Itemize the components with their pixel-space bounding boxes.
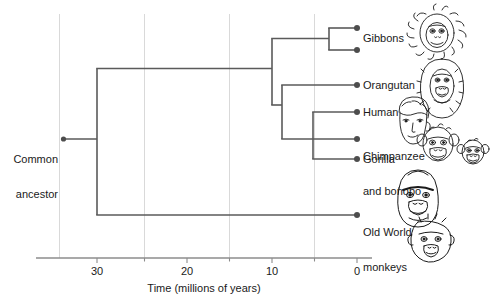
- axis-ticks: [97, 258, 357, 263]
- illustration-gibbon-face: [407, 4, 466, 59]
- tip-label-gorilla: Gorilla: [363, 154, 395, 166]
- tip-dot-chimpanzee: [354, 136, 360, 142]
- tip-dots: [61, 25, 360, 218]
- axis-tick-label-0: 0: [342, 265, 372, 277]
- root-label-line2: ancestor: [0, 189, 58, 201]
- axis-tick-label-10: 10: [257, 265, 287, 277]
- tip-label-orangutan: Orangutan: [363, 80, 415, 92]
- axis-title: Time (millions of years): [54, 282, 354, 294]
- axis-tick-label-30: 30: [82, 265, 112, 277]
- illustration-old-world-monkey-face: [408, 214, 454, 262]
- tip-dot-orangutan: [354, 82, 360, 88]
- root-label-line1: Common: [0, 154, 58, 166]
- node-dot-common-ancestor: [61, 136, 66, 141]
- tip-dot-gorilla: [354, 156, 360, 162]
- axis-tick-label-20: 20: [172, 265, 202, 277]
- tip-label-chimpanzee-line2: and bonobo: [363, 186, 425, 198]
- tip-label-owm-line1: Old World: [363, 227, 412, 239]
- root-label-common-ancestor: Common ancestor: [0, 131, 58, 223]
- tip-dot-gibbons-lower: [354, 47, 360, 53]
- tip-label-gibbons: Gibbons: [363, 33, 404, 45]
- tip-label-human: Human: [363, 107, 398, 119]
- tree-branches: [64, 28, 357, 215]
- illustration-bonobo-face: [457, 138, 489, 164]
- tip-dot-human: [354, 109, 360, 115]
- tip-dot-gibbons-upper: [354, 25, 360, 31]
- tip-label-old-world-monkeys: Old World monkeys: [363, 204, 412, 296]
- illustration-orangutan-face: [417, 59, 464, 118]
- phylogenetic-tree-figure: Common ancestor Gibbons Orangutan Human …: [0, 0, 495, 305]
- tip-dot-old-world-monkeys: [354, 212, 360, 218]
